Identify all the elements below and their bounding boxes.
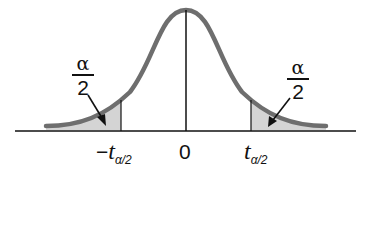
left-alpha-half-label: α 2 <box>72 54 94 99</box>
right-alpha-denominator: 2 <box>287 81 309 103</box>
center-zero-label: 0 <box>179 141 191 163</box>
left-alpha-denominator: 2 <box>72 77 94 99</box>
left-critical-value-label: −tα/2 <box>96 140 132 167</box>
right-alpha-half-label: α 2 <box>287 58 309 103</box>
left-t-subscript: α/2 <box>115 153 132 167</box>
right-alpha-numerator: α <box>287 58 309 76</box>
right-critical-value-label: tα/2 <box>244 140 268 167</box>
right-t-symbol: t <box>244 138 251 164</box>
minus-sign: − <box>96 140 108 163</box>
left-alpha-numerator: α <box>72 54 94 72</box>
left-t-symbol: t <box>108 138 115 164</box>
right-t-subscript: α/2 <box>251 153 268 167</box>
